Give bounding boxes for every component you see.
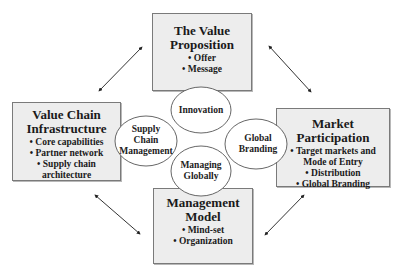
label-line: Global [227, 133, 289, 144]
managing-globally-label: Managing Globally [171, 160, 231, 182]
label-line: Chain [115, 135, 177, 146]
title-line: Infrastructure [13, 122, 120, 136]
innovation-label: Innovation [171, 105, 231, 116]
title-line: Management [154, 196, 252, 210]
list-item: Mind-set [154, 225, 252, 236]
title-line: Proposition [153, 38, 251, 52]
value-chain-infrastructure-box: Value Chain Infrastructure Core capabili… [12, 102, 121, 181]
value-proposition-list: Offer Message [153, 53, 251, 75]
title-line: Value Chain [13, 108, 120, 122]
management-model-list: Mind-set Organization [154, 225, 252, 247]
supply-chain-label: Supply Chain Management [115, 124, 177, 157]
list-item-continuation: architecture [13, 170, 120, 181]
list-item: Offer [153, 53, 251, 64]
market-participation-list: Target markets and Mode of Entry Distrib… [277, 146, 389, 190]
arrow-top-right [269, 46, 311, 92]
label-line: Globally [171, 171, 231, 182]
title-line: Model [154, 210, 252, 224]
market-participation-title: Market Participation [277, 117, 389, 145]
list-item: Core capabilities [13, 137, 120, 148]
title-line: Participation [277, 131, 389, 145]
market-participation-box: Market Participation Target markets and … [276, 108, 390, 187]
list-item-continuation: Mode of Entry [277, 157, 389, 168]
arrow-bottom-right [265, 195, 304, 235]
value-proposition-title: The Value Proposition [153, 24, 251, 52]
title-line: Market [277, 117, 389, 131]
title-line: The Value [153, 24, 251, 38]
value-chain-infrastructure-title: Value Chain Infrastructure [13, 108, 120, 136]
list-item: Supply chain [13, 159, 120, 170]
management-model-box: Management Model Mind-set Organization [153, 188, 253, 264]
list-item: Message [153, 64, 251, 75]
management-model-title: Management Model [154, 196, 252, 224]
arrow-top-left [99, 47, 142, 91]
list-item: Global Branding [277, 179, 389, 190]
list-item: Partner network [13, 148, 120, 159]
list-item: Organization [154, 236, 252, 247]
label-line: Management [115, 146, 177, 157]
list-item: Target markets and [277, 146, 389, 157]
value-chain-list: Core capabilities Partner network Supply… [13, 137, 120, 181]
global-branding-label: Global Branding [227, 133, 289, 155]
label-line: Innovation [171, 105, 231, 116]
list-item: Distribution [277, 168, 389, 179]
value-proposition-box: The Value Proposition Offer Message [152, 13, 252, 91]
label-line: Managing [171, 160, 231, 171]
arrow-bottom-left [95, 195, 140, 234]
label-line: Supply [115, 124, 177, 135]
label-line: Branding [227, 144, 289, 155]
